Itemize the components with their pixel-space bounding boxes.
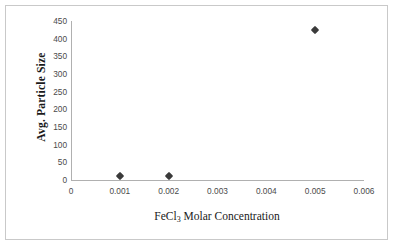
- x-axis-title-prefix: FeCl: [154, 210, 176, 222]
- x-tick-label: 0.004: [246, 186, 286, 196]
- data-point-marker: [116, 172, 124, 180]
- y-tick-label: 200: [43, 105, 67, 113]
- x-axis-title-subscript: 3: [177, 215, 181, 224]
- x-tick-label: 0.002: [149, 186, 189, 196]
- y-tick-label: 250: [43, 88, 67, 96]
- x-axis-tick-labels: 00.0010.0020.0030.0040.0050.006: [0, 186, 395, 200]
- data-point-marker: [164, 172, 172, 180]
- x-tick-label: 0.006: [344, 186, 384, 196]
- y-tick-label: 50: [43, 158, 67, 166]
- x-tick-label: 0.003: [198, 186, 238, 196]
- x-tick-label: 0: [51, 186, 91, 196]
- x-axis-title-suffix: Molar Concentration: [181, 210, 280, 222]
- y-tick-label: 450: [43, 17, 67, 25]
- x-axis-title: FeCl3 Molar Concentration: [71, 210, 363, 222]
- y-tick-label: 300: [43, 70, 67, 78]
- data-point-marker: [311, 26, 319, 34]
- y-tick-label: 150: [43, 123, 67, 131]
- x-tick-label: 0.001: [100, 186, 140, 196]
- x-tick-label: 0.005: [295, 186, 335, 196]
- y-tick-label: 350: [43, 52, 67, 60]
- plot-area: [71, 21, 364, 180]
- x-axis-line: [71, 180, 364, 181]
- y-tick-label: 100: [43, 141, 67, 149]
- y-tick-label: 400: [43, 35, 67, 43]
- y-axis-tick-labels: 050100150200250300350400450: [42, 0, 67, 247]
- chart-figure: Avg. Particle Size 050100150200250300350…: [0, 0, 395, 247]
- y-tick-label: 0: [43, 176, 67, 184]
